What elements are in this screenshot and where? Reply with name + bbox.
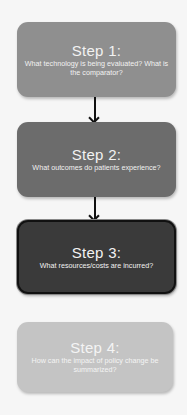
step-1-box: Step 1: What technology is being evaluat… xyxy=(17,22,176,97)
arrow-step2-to-step3 xyxy=(94,197,96,219)
step-4-description: How can the impact of policy change be s… xyxy=(17,356,173,374)
step-4-title: Step 4: xyxy=(70,340,120,356)
step-2-box: Step 2: What outcomes do patients experi… xyxy=(17,122,176,197)
step-2-description: What outcomes do patients experience? xyxy=(26,163,166,172)
arrow-step1-to-step2 xyxy=(94,97,96,121)
step-3-box-highlighted: Step 3: What resources/costs are incurre… xyxy=(17,220,176,294)
step-2-title: Step 2: xyxy=(72,147,122,163)
step-4-box: Step 4: How can the impact of policy cha… xyxy=(17,322,173,392)
step-3-title: Step 3: xyxy=(72,245,122,261)
step-1-title: Step 1: xyxy=(72,43,122,59)
step-3-description: What resources/costs are incurred? xyxy=(34,261,159,270)
step-1-description: What technology is being evaluated? What… xyxy=(17,59,176,77)
